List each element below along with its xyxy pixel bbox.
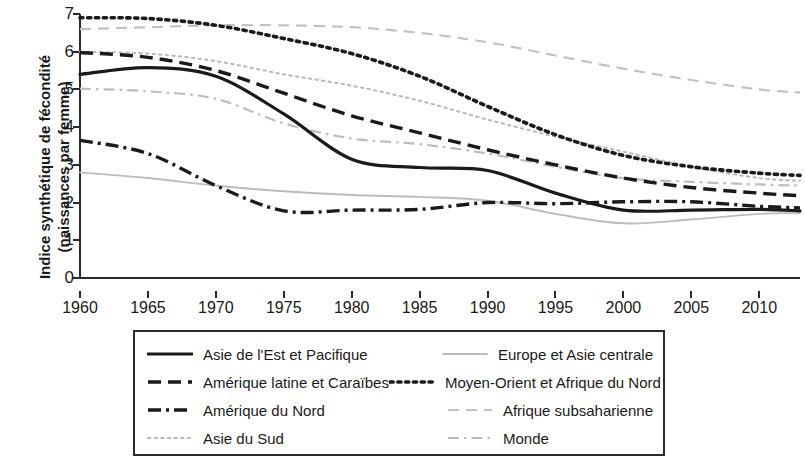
x-tick-mark bbox=[554, 291, 556, 298]
x-tick-label: 1990 bbox=[470, 299, 506, 317]
x-tick-mark bbox=[622, 291, 624, 298]
fertility-rate-line-chart: Indice synthétique de fécondité (naissan… bbox=[0, 0, 805, 462]
legend-swatch bbox=[442, 347, 488, 361]
x-tick-mark bbox=[351, 291, 353, 298]
legend-item[interactable]: Europe et Asie centrale bbox=[442, 346, 653, 363]
series-line bbox=[80, 140, 800, 212]
x-tick-mark bbox=[147, 291, 149, 298]
x-tick-label: 1960 bbox=[62, 299, 98, 317]
legend-row: Amérique latine et CaraïbesMoyen-Orient … bbox=[147, 368, 653, 396]
legend-item-label: Afrique subsaharienne bbox=[503, 402, 653, 419]
x-tick-mark bbox=[283, 291, 285, 298]
legend-row: Asie du SudMonde bbox=[147, 424, 653, 452]
legend-row: Amérique du NordAfrique subsaharienne bbox=[147, 396, 653, 424]
series-line bbox=[80, 25, 800, 92]
y-tick-mark bbox=[73, 126, 80, 128]
x-tick-mark bbox=[758, 291, 760, 298]
legend-swatch bbox=[389, 375, 435, 389]
x-tick-label: 1980 bbox=[334, 299, 370, 317]
y-axis-title-line1: Indice synthétique de fécondité bbox=[35, 17, 54, 317]
x-tick-mark bbox=[487, 291, 489, 298]
legend-item[interactable]: Afrique subsaharienne bbox=[447, 402, 653, 419]
x-tick-label: 1970 bbox=[198, 299, 234, 317]
legend-swatch bbox=[147, 347, 193, 361]
x-tick-label: 1965 bbox=[130, 299, 166, 317]
legend-item[interactable]: Amérique latine et Caraïbes bbox=[147, 374, 389, 391]
legend-swatch bbox=[147, 375, 193, 389]
y-tick-mark bbox=[73, 164, 80, 166]
x-tick-label: 1985 bbox=[402, 299, 438, 317]
x-tick-label: 1995 bbox=[538, 299, 574, 317]
x-tick-mark bbox=[690, 291, 692, 298]
legend-row: Asie de l'Est et PacifiqueEurope et Asie… bbox=[147, 340, 653, 368]
legend-item-label: Amérique du Nord bbox=[203, 402, 325, 419]
x-tick-mark bbox=[215, 291, 217, 298]
plot-area: 01234567 1960196519701975198019851990199… bbox=[80, 14, 800, 278]
legend-item-label: Amérique latine et Caraïbes bbox=[203, 374, 389, 391]
y-tick-mark bbox=[73, 88, 80, 90]
legend-item[interactable]: Monde bbox=[447, 430, 549, 447]
legend-swatch bbox=[147, 403, 193, 417]
legend-item-label: Monde bbox=[503, 430, 549, 447]
x-tick-label: 2005 bbox=[674, 299, 710, 317]
y-tick-mark bbox=[73, 13, 80, 15]
legend-item-label: Asie de l'Est et Pacifique bbox=[203, 346, 368, 363]
x-tick-label: 1975 bbox=[266, 299, 302, 317]
series-line bbox=[80, 52, 800, 195]
y-tick-mark bbox=[73, 239, 80, 241]
legend-item-label: Moyen-Orient et Afrique du Nord bbox=[445, 374, 661, 391]
legend-item[interactable]: Asie de l'Est et Pacifique bbox=[147, 346, 442, 363]
y-tick-mark bbox=[73, 51, 80, 53]
y-tick-mark bbox=[73, 277, 80, 279]
legend-swatch bbox=[147, 431, 193, 445]
legend-item-label: Asie du Sud bbox=[203, 430, 284, 447]
y-tick-mark bbox=[73, 202, 80, 204]
legend-swatch bbox=[447, 431, 493, 445]
legend-item[interactable]: Amérique du Nord bbox=[147, 402, 447, 419]
legend-swatch bbox=[447, 403, 493, 417]
series-line bbox=[80, 18, 800, 176]
legend-item-label: Europe et Asie centrale bbox=[498, 346, 653, 363]
chart-legend: Asie de l'Est et PacifiqueEurope et Asie… bbox=[133, 330, 665, 456]
x-tick-mark bbox=[79, 291, 81, 298]
series-lines bbox=[80, 14, 800, 278]
x-tick-label: 2000 bbox=[606, 299, 642, 317]
legend-item[interactable]: Asie du Sud bbox=[147, 430, 447, 447]
series-line bbox=[80, 172, 800, 223]
x-tick-label: 2010 bbox=[741, 299, 777, 317]
x-tick-mark bbox=[419, 291, 421, 298]
legend-item[interactable]: Moyen-Orient et Afrique du Nord bbox=[389, 374, 661, 391]
